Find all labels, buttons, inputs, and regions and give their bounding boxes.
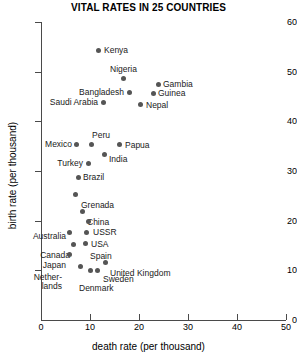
data-point[interactable] bbox=[138, 102, 143, 107]
x-tick-mark bbox=[139, 314, 140, 320]
data-point[interactable] bbox=[95, 268, 100, 273]
x-tick-mark bbox=[90, 314, 91, 320]
data-point-label: India bbox=[109, 155, 127, 164]
data-point[interactable] bbox=[76, 175, 81, 180]
data-point[interactable] bbox=[67, 230, 72, 235]
x-tick-mark bbox=[237, 314, 238, 320]
data-point[interactable] bbox=[73, 192, 78, 197]
data-point[interactable] bbox=[102, 152, 107, 157]
data-point[interactable] bbox=[121, 76, 126, 81]
data-point[interactable] bbox=[117, 142, 122, 147]
y-tick-label: 60 bbox=[267, 18, 297, 27]
data-point[interactable] bbox=[83, 241, 88, 246]
data-point[interactable] bbox=[86, 161, 91, 166]
y-tick-mark bbox=[35, 121, 41, 122]
x-tick-label: 40 bbox=[222, 323, 252, 332]
data-point-label: USSR bbox=[93, 228, 117, 237]
y-tick-mark bbox=[35, 221, 41, 222]
data-point-label: Australia bbox=[33, 232, 66, 241]
data-point[interactable] bbox=[89, 142, 94, 147]
data-point-label: Guinea bbox=[158, 89, 185, 98]
y-tick-label: 40 bbox=[267, 117, 297, 126]
page-title: VITAL RATES IN 25 COUNTRIES bbox=[0, 2, 297, 13]
x-tick-label: 30 bbox=[173, 323, 203, 332]
y-tick-mark bbox=[35, 72, 41, 73]
x-tick-label: 0 bbox=[26, 323, 56, 332]
y-tick-mark bbox=[35, 22, 41, 23]
data-point[interactable] bbox=[101, 100, 106, 105]
data-point[interactable] bbox=[88, 268, 93, 273]
data-point-label: Japan bbox=[43, 261, 66, 270]
data-point-label: Grenada bbox=[81, 201, 114, 210]
data-point-label: Turkey bbox=[57, 159, 83, 168]
x-tick-label: 20 bbox=[124, 323, 154, 332]
data-point-label: Papua bbox=[125, 141, 150, 150]
data-point[interactable] bbox=[84, 230, 89, 235]
data-point-label: Nether- lands bbox=[34, 273, 62, 291]
x-tick-mark bbox=[188, 314, 189, 320]
data-point[interactable] bbox=[80, 209, 85, 214]
data-point-label: Spain bbox=[90, 252, 112, 261]
data-point-label: Nigeria bbox=[110, 65, 137, 74]
data-point[interactable] bbox=[127, 90, 132, 95]
x-tick-label: 10 bbox=[75, 323, 105, 332]
x-axis-title: death rate (per thousand) bbox=[0, 341, 297, 352]
data-point-label: Kenya bbox=[104, 46, 128, 55]
data-point[interactable] bbox=[151, 91, 156, 96]
x-tick-label: 50 bbox=[271, 323, 297, 332]
y-tick-mark bbox=[35, 171, 41, 172]
data-point-label: Saudi Arabia bbox=[50, 98, 98, 107]
data-point[interactable] bbox=[156, 82, 161, 87]
data-point-label: Mexico bbox=[45, 140, 72, 149]
y-tick-label: 10 bbox=[267, 266, 297, 275]
data-point-label: Peru bbox=[92, 131, 110, 140]
data-point-label: Brazil bbox=[83, 173, 104, 182]
scatter-chart: VITAL RATES IN 25 COUNTRIES 010203040506… bbox=[0, 0, 297, 363]
y-axis-title: birth rate (per thousand) bbox=[7, 101, 18, 251]
y-tick-label: 50 bbox=[267, 68, 297, 77]
y-tick-label: 30 bbox=[267, 167, 297, 176]
data-point[interactable] bbox=[67, 252, 72, 257]
data-point[interactable] bbox=[86, 219, 91, 224]
data-point-label: Nepal bbox=[146, 101, 168, 110]
data-point[interactable] bbox=[78, 264, 83, 269]
x-axis-line bbox=[41, 320, 286, 321]
data-point-label: USA bbox=[91, 240, 108, 249]
data-point-label: Canada bbox=[40, 251, 70, 260]
data-point[interactable] bbox=[96, 48, 101, 53]
y-tick-label: 20 bbox=[267, 217, 297, 226]
data-point-label: Denmark bbox=[79, 284, 113, 293]
data-point[interactable] bbox=[74, 142, 79, 147]
data-point[interactable] bbox=[103, 260, 108, 265]
data-point-label: Bangladesh bbox=[79, 88, 124, 97]
x-tick-mark bbox=[286, 314, 287, 320]
data-point[interactable] bbox=[71, 242, 76, 247]
